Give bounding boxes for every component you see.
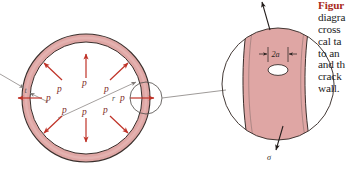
pressure-arrow-sw: p xyxy=(44,105,67,133)
radius-label: r xyxy=(112,94,116,103)
pressure-arrow-line xyxy=(110,116,128,133)
stress-label-bottom: σ xyxy=(267,153,272,162)
detail-wall-band xyxy=(243,20,312,152)
pressure-label: p xyxy=(119,93,125,103)
crack-length-label: 2a xyxy=(272,50,280,59)
pressure-arrow-line xyxy=(44,116,62,133)
pressure-arrow-s: p xyxy=(81,107,87,142)
pressure-arrow-nw: p xyxy=(44,63,62,94)
pressure-label: p xyxy=(45,93,51,103)
pressure-vessel-figure: r t p p p xyxy=(0,0,363,194)
pressure-label: p xyxy=(81,78,87,88)
figure-caption: Figur diagra cross cal ta to an and th c… xyxy=(318,0,363,194)
detail-leader-line xyxy=(162,90,226,98)
caption-line: cross xyxy=(318,24,363,36)
thickness-leader-upper xyxy=(0,74,24,88)
pressure-label: p xyxy=(103,84,109,94)
pressure-arrow-line xyxy=(110,63,128,80)
figure-page: r t p p p xyxy=(0,0,363,194)
pressure-arrow-n: p xyxy=(81,54,87,88)
pressure-arrow-ne: p xyxy=(103,63,128,94)
pressure-arrow-line xyxy=(44,63,62,80)
pressure-label: p xyxy=(56,84,62,94)
caption-line: wall. xyxy=(318,83,363,95)
wall-band-fill xyxy=(243,20,312,152)
stress-arrow-top xyxy=(262,2,270,30)
stress-arrow-line xyxy=(262,2,270,30)
pressure-label: p xyxy=(81,107,87,117)
caption-line: cal ta xyxy=(318,36,363,48)
crack-ellipse xyxy=(268,65,288,76)
caption-line: diagra xyxy=(318,12,363,24)
pressure-arrow-se: p xyxy=(102,105,128,133)
pressure-label: p xyxy=(102,105,108,115)
pressure-label: p xyxy=(61,105,67,115)
